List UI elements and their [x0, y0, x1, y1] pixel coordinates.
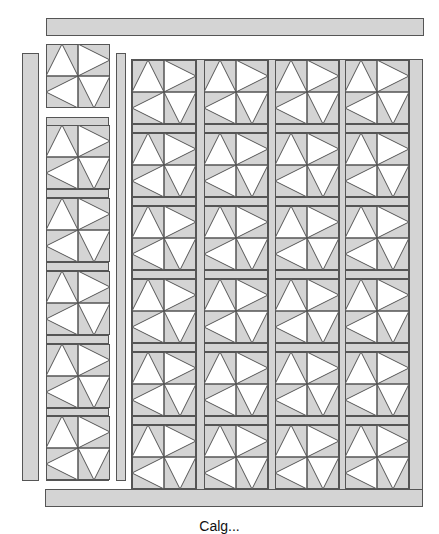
- left-column-sashing: [46, 262, 109, 271]
- loose-quilt-block: [46, 44, 110, 108]
- main-grid-block: [275, 206, 339, 270]
- main-grid-block: [132, 60, 196, 124]
- left-column-block: [46, 125, 110, 189]
- left-column-block: [46, 344, 110, 408]
- horizontal-sashing: [345, 197, 409, 206]
- left-column-sashing: [46, 408, 109, 416]
- left-column-block: [46, 416, 110, 480]
- left-column-sashing: [46, 189, 109, 198]
- horizontal-sashing: [275, 416, 339, 425]
- main-grid-block: [345, 206, 409, 270]
- horizontal-sashing: [132, 343, 196, 352]
- horizontal-sashing: [275, 270, 339, 279]
- main-grid-block: [132, 279, 196, 343]
- main-grid-block: [345, 279, 409, 343]
- main-grid-block: [204, 206, 268, 270]
- main-grid-block: [132, 206, 196, 270]
- left-column-block: [46, 271, 110, 335]
- horizontal-sashing: [275, 124, 339, 133]
- left-column-block: [46, 198, 110, 262]
- main-grid-block: [132, 133, 196, 197]
- horizontal-sashing: [204, 270, 268, 279]
- horizontal-sashing: [345, 343, 409, 352]
- left-sash-strip: [116, 53, 126, 481]
- horizontal-sashing: [275, 343, 339, 352]
- diagram-caption: Calg...: [0, 519, 439, 533]
- horizontal-sashing: [132, 270, 196, 279]
- horizontal-sashing: [132, 124, 196, 133]
- horizontal-sashing: [345, 270, 409, 279]
- main-grid-block: [204, 425, 268, 489]
- horizontal-sashing: [132, 197, 196, 206]
- main-grid-block: [345, 60, 409, 124]
- main-grid-block: [275, 352, 339, 416]
- horizontal-sashing: [204, 416, 268, 425]
- horizontal-sashing: [275, 197, 339, 206]
- left-border-strip: [22, 53, 39, 481]
- horizontal-sashing: [132, 416, 196, 425]
- horizontal-sashing: [204, 197, 268, 206]
- horizontal-sashing: [204, 124, 268, 133]
- vertical-sashing-strip: [409, 59, 423, 490]
- main-grid-block: [132, 352, 196, 416]
- horizontal-sashing: [345, 416, 409, 425]
- main-grid-block: [204, 352, 268, 416]
- horizontal-sashing: [204, 343, 268, 352]
- main-grid-block: [345, 352, 409, 416]
- main-grid-block: [275, 133, 339, 197]
- left-column-sashing: [46, 335, 109, 344]
- main-grid-block: [345, 133, 409, 197]
- main-grid-block: [275, 279, 339, 343]
- main-grid-block: [275, 60, 339, 124]
- bottom-border-strip: [45, 489, 423, 507]
- main-grid-block: [275, 425, 339, 489]
- horizontal-sashing: [345, 124, 409, 133]
- main-grid-block: [345, 425, 409, 489]
- main-grid-block: [132, 425, 196, 489]
- main-grid-block: [204, 133, 268, 197]
- main-grid-block: [204, 60, 268, 124]
- main-grid-block: [204, 279, 268, 343]
- top-border-strip: [46, 18, 424, 36]
